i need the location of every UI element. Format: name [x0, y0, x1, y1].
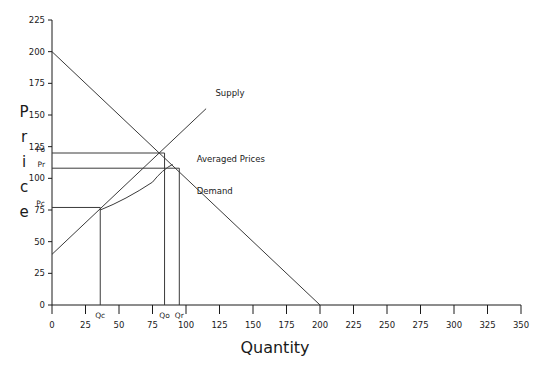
x-axis: 0255075100125150175200225250275300325350 [49, 305, 529, 330]
y-axis-tick-label: 225 [29, 15, 45, 25]
annotation-Pc: Pc [36, 199, 45, 208]
chart-canvas: 0255075100125150175200225 02550751001251… [0, 0, 550, 374]
annotation-Qo: Qo [159, 311, 170, 320]
x-axis-tick-label: 100 [178, 320, 194, 330]
annotation-Qc: Qc [95, 311, 105, 320]
series-label-demand: Demand [197, 186, 233, 196]
series-label-supply: Supply [215, 88, 244, 98]
series-labels: SupplyDemandAveraged Prices [197, 88, 266, 196]
guide-lines [52, 153, 179, 305]
series-label-averaged-prices: Averaged Prices [197, 154, 266, 164]
x-axis-tick-label: 325 [479, 320, 495, 330]
x-axis-tick-label: 125 [211, 320, 227, 330]
series-curve-averaged-prices [100, 164, 172, 210]
x-axis-tick-label: 300 [446, 320, 462, 330]
series-line-supply [52, 109, 206, 255]
x-axis-tick-label: 250 [379, 320, 395, 330]
x-axis-tick-label: 200 [312, 320, 328, 330]
x-axis-tick-label: 275 [412, 320, 428, 330]
x-axis-tick-label: 225 [345, 320, 361, 330]
y-axis-tick-label: 25 [34, 268, 45, 278]
annotation-Qr: Qr [175, 311, 185, 320]
y-axis-tick-label: 175 [29, 78, 45, 88]
x-axis-tick-label: 0 [49, 320, 54, 330]
x-axis-tick-label: 175 [278, 320, 294, 330]
x-axis-tick-label: 75 [147, 320, 158, 330]
series-lines [52, 52, 320, 305]
x-axis-tick-label: 150 [245, 320, 261, 330]
y-axis-tick-label: 0 [40, 300, 45, 310]
x-axis-tick-label: 350 [513, 320, 529, 330]
series-line-demand [52, 52, 320, 305]
economics-supply-demand-chart: P r i c e Quantity 025507510012515017520… [0, 0, 550, 374]
annotation-Pr: Pr [38, 160, 46, 169]
y-axis-tick-label: 200 [29, 47, 45, 57]
annotation-Po: Po [36, 145, 45, 154]
y-axis-tick-label: 50 [34, 237, 45, 247]
y-axis-tick-label: 150 [29, 110, 45, 120]
x-axis-tick-label: 50 [114, 320, 125, 330]
y-axis-tick-label: 100 [29, 173, 45, 183]
x-axis-tick-label: 25 [80, 320, 91, 330]
